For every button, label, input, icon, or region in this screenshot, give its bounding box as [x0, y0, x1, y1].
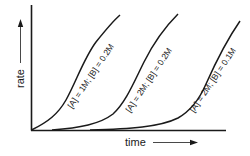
curve-a1m-b02m	[32, 15, 121, 130]
x-axis-label: time	[125, 136, 146, 148]
curve2-label: [A] = 2M; [B] = 0.2M	[123, 46, 174, 114]
arrow-up-icon	[18, 19, 23, 27]
x-axis-label-group: time	[125, 136, 198, 148]
arrow-right-icon	[190, 140, 198, 145]
rate-vs-time-chart: [A] = 1M; [B] = 0.2M [A] = 2M; [B] = 0.2…	[0, 0, 250, 156]
y-axis-label-group: rate	[14, 19, 26, 88]
curve1-label: [A] = 1M; [B] = 0.2M	[65, 42, 116, 110]
y-axis-label: rate	[14, 69, 26, 88]
curve3-label: [A] = 2M; [B] = 0.1M	[187, 46, 238, 114]
